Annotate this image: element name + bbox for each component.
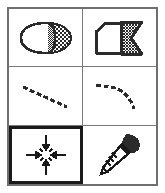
dashed-curve-line-icon <box>90 76 148 116</box>
palette-cell-straight-line[interactable]: Straight Line <box>9 67 83 125</box>
palette-cell-converge[interactable]: Converge <box>9 126 83 184</box>
palette-cell-gradient-fill[interactable]: Gradient Fill Shape <box>9 9 83 67</box>
palette-cell-pattern-polygon[interactable]: Pattern Fill Polygon <box>83 9 157 67</box>
dithered-polygon-fill-icon <box>90 18 148 58</box>
tool-palette-grid: Gradient Fill Shape <box>9 9 156 184</box>
tool-palette-frame: Gradient Fill Shape <box>7 7 158 186</box>
eyedropper-icon <box>95 131 143 179</box>
screenshot-root: Gradient Fill Shape <box>0 0 165 193</box>
palette-cell-curved-line[interactable]: Curved Line <box>83 67 157 125</box>
converge-arrows-icon <box>23 132 69 178</box>
dashed-straight-line-icon <box>15 76 75 116</box>
palette-cell-eyedropper[interactable]: Eyedropper <box>83 126 157 184</box>
dithered-circle-fill-icon <box>14 18 76 58</box>
